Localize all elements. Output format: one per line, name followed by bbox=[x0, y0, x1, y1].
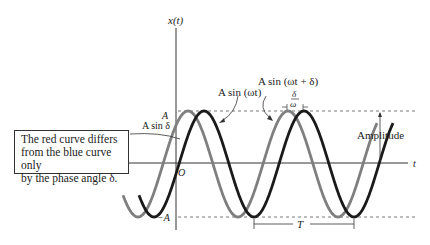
blue-curve-leader-arrow bbox=[222, 96, 238, 121]
callout-line-2: from the blue curve only bbox=[21, 146, 128, 172]
phase-offset-denominator: ω bbox=[290, 99, 296, 109]
y-axis-label: x(t) bbox=[167, 14, 184, 27]
red-curve-label: A sin (ωt + δ) bbox=[258, 75, 319, 88]
phase-offset-numerator: δ bbox=[292, 89, 297, 99]
amplitude-bottom-label: −A bbox=[157, 212, 171, 223]
callout-box: The red curve differs from the blue curv… bbox=[14, 130, 129, 174]
callout-line-3: by the phase angle δ. bbox=[21, 172, 128, 185]
amplitude-label: Amplitude bbox=[357, 129, 404, 141]
amplitude-arrowhead-icon bbox=[378, 112, 382, 117]
blue-curve-label: A sin (ωt) bbox=[218, 86, 262, 99]
t-axis-label: t bbox=[413, 158, 416, 169]
callout-line-1: The red curve differs bbox=[21, 133, 128, 146]
blue-curve bbox=[139, 111, 393, 217]
sinusoid-diagram: x(t) t O A A sin δ −A A sin (ωt) A sin (… bbox=[0, 0, 430, 245]
origin-label: O bbox=[178, 167, 185, 178]
a-sin-delta-label: A sin δ bbox=[142, 120, 170, 131]
blue-curve-leader-arrowhead-icon bbox=[219, 118, 225, 123]
period-label: T bbox=[297, 218, 304, 230]
red-curve-leader-arrow bbox=[263, 96, 270, 118]
